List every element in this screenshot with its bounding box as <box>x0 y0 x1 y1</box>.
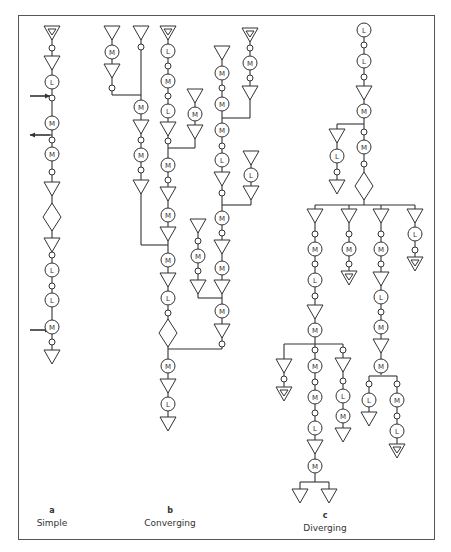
transport-icon <box>195 238 201 244</box>
transport-icon <box>219 341 225 347</box>
storage-triangle-icon <box>335 428 351 442</box>
operation-m-icon: M <box>308 390 322 404</box>
storage-triangle-icon <box>307 305 323 319</box>
svg-text:L: L <box>50 79 54 87</box>
svg-text:M: M <box>312 394 318 402</box>
svg-text:M: M <box>378 324 384 332</box>
operation-l-icon: L <box>161 44 175 58</box>
storage-triangle-icon <box>335 358 351 372</box>
transport-icon <box>138 44 144 50</box>
svg-text:M: M <box>378 363 384 371</box>
svg-text:M: M <box>49 120 55 128</box>
svg-text:M: M <box>378 246 384 254</box>
transport-icon <box>312 379 318 385</box>
transport-icon <box>312 293 318 299</box>
transport-icon <box>219 190 225 196</box>
storage-triangle-icon <box>160 273 176 287</box>
svg-text:L: L <box>367 397 371 405</box>
svg-text:L: L <box>50 297 54 305</box>
transport-icon <box>219 230 225 236</box>
operation-m-icon: M <box>215 97 229 111</box>
transport-icon <box>49 252 55 258</box>
transport-icon <box>334 169 340 175</box>
transport-icon <box>195 268 201 274</box>
operation-m-icon: M <box>374 359 388 373</box>
operation-m-icon: M <box>191 249 205 263</box>
operation-m-icon: M <box>134 148 148 162</box>
operation-m-icon: M <box>188 107 202 121</box>
storage-triangle-icon <box>44 350 60 364</box>
operation-m-icon: M <box>357 140 371 154</box>
svg-text:M: M <box>165 162 171 170</box>
operation-m-icon: M <box>161 359 175 373</box>
svg-text:M: M <box>394 397 400 405</box>
svg-text:L: L <box>379 294 383 302</box>
storage-triangle-icon <box>160 187 176 201</box>
svg-text:L: L <box>362 27 366 35</box>
svg-text:M: M <box>219 101 225 109</box>
storage-triangle-icon <box>214 172 230 186</box>
transport-icon <box>49 137 55 143</box>
svg-text:M: M <box>312 463 318 471</box>
caption-letter-a: a <box>20 505 84 517</box>
svg-text:M: M <box>219 70 225 78</box>
operation-l-icon: L <box>336 389 350 403</box>
storage-triangle-icon <box>44 56 60 70</box>
storage-triangle-icon <box>44 238 60 252</box>
operation-l-icon: L <box>161 291 175 305</box>
svg-text:M: M <box>219 215 225 223</box>
svg-text:M: M <box>49 324 55 332</box>
svg-text:M: M <box>346 246 352 254</box>
transport-icon <box>312 410 318 416</box>
svg-text:M: M <box>138 104 144 112</box>
process-flow-diagram: LMMLLMMMMLMLMMMLMLMMMMMLMMMMLLLMMLMLMMML… <box>0 0 451 552</box>
transport-icon <box>281 376 287 382</box>
transport-icon <box>340 378 346 384</box>
operation-m-icon: M <box>134 100 148 114</box>
transport-icon <box>394 381 400 387</box>
storage-triangle-icon <box>133 180 149 194</box>
storage-triangle-icon <box>214 46 230 60</box>
transport-icon <box>378 261 384 267</box>
transport-icon <box>138 137 144 143</box>
storage-triangle-icon <box>243 151 259 165</box>
storage-triangle-icon <box>133 26 149 40</box>
transport-icon <box>247 75 253 81</box>
storage-triangle-icon <box>187 89 203 103</box>
transport-icon <box>49 169 55 175</box>
operation-m-icon: M <box>161 158 175 172</box>
svg-text:L: L <box>249 172 253 180</box>
caption-converging: b Converging <box>130 505 210 529</box>
svg-text:M: M <box>165 78 171 86</box>
operation-m-icon: M <box>374 320 388 334</box>
caption-diverging: c Diverging <box>285 510 365 534</box>
storage-triangle-icon <box>321 489 337 503</box>
operation-l-icon: L <box>374 290 388 304</box>
transport-icon <box>49 45 55 51</box>
svg-text:L: L <box>395 428 399 436</box>
caption-title-simple: Simple <box>20 517 84 529</box>
svg-text:M: M <box>219 127 225 135</box>
storage-triangle-icon <box>329 180 345 194</box>
svg-text:M: M <box>138 152 144 160</box>
operation-l-icon: L <box>308 273 322 287</box>
operation-m-icon: M <box>161 253 175 267</box>
svg-text:M: M <box>165 363 171 371</box>
transport-icon <box>165 310 171 316</box>
transport-icon <box>165 177 171 183</box>
operation-m-icon: M <box>342 242 356 256</box>
transport-icon <box>138 167 144 173</box>
caption-simple: a Simple <box>20 505 84 529</box>
storage-triangle-icon <box>133 120 149 134</box>
storage-triangle-icon <box>307 440 323 454</box>
transport-icon <box>412 247 418 253</box>
svg-text:M: M <box>312 363 318 371</box>
transport-icon <box>312 261 318 267</box>
transport-icon <box>247 45 253 51</box>
transport-icon <box>346 231 352 237</box>
transport-icon <box>49 95 55 101</box>
storage-double-triangle-icon <box>242 28 258 42</box>
operation-m-icon: M <box>374 242 388 256</box>
connector-lines <box>30 24 415 489</box>
storage-triangle-icon <box>160 417 176 431</box>
